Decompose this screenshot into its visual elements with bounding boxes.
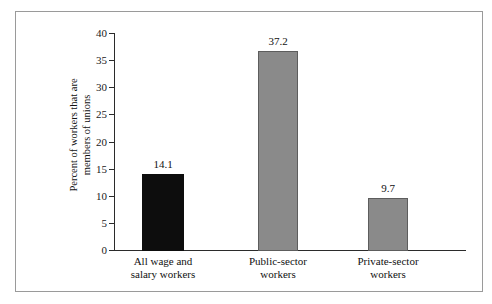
category-label-line-1: Public-sector <box>218 255 338 268</box>
y-tick-5 <box>109 223 114 224</box>
y-axis-title-line-1: Percent of workers that are <box>67 20 80 250</box>
y-tick-0 <box>109 250 114 251</box>
bar-value-public-sector-workers: 37.2 <box>248 35 308 47</box>
y-axis-line <box>114 33 115 251</box>
y-tick-20 <box>109 142 114 143</box>
y-tick-25 <box>109 114 114 115</box>
y-tick-10 <box>109 196 114 197</box>
bar-chart-plot-area: 40 35 30 25 20 15 10 5 0 Percent of work… <box>0 0 492 304</box>
category-label-all-wage-and-salary-workers: All wage and salary workers <box>103 255 223 281</box>
category-label-line-2: workers <box>218 268 338 281</box>
category-label-private-sector-workers: Private-sector workers <box>328 255 448 281</box>
category-label-line-2: workers <box>328 268 448 281</box>
y-tick-15 <box>109 169 114 170</box>
category-label-public-sector-workers: Public-sector workers <box>218 255 338 281</box>
y-axis-title: Percent of workers that are members of u… <box>67 20 93 250</box>
bar-all-wage-and-salary-workers <box>142 174 184 251</box>
y-tick-30 <box>109 87 114 88</box>
category-label-line-1: Private-sector <box>328 255 448 268</box>
bar-public-sector-workers <box>258 51 298 251</box>
y-tick-35 <box>109 60 114 61</box>
category-label-line-1: All wage and <box>103 255 223 268</box>
y-axis-title-line-2: members of unions <box>80 20 93 250</box>
bar-private-sector-workers <box>368 198 408 251</box>
category-label-line-2: salary workers <box>103 268 223 281</box>
y-tick-40 <box>109 33 114 34</box>
bar-value-private-sector-workers: 9.7 <box>358 182 418 194</box>
figure-canvas: 40 35 30 25 20 15 10 5 0 Percent of work… <box>0 0 492 304</box>
bar-value-all-wage-and-salary-workers: 14.1 <box>133 158 193 170</box>
